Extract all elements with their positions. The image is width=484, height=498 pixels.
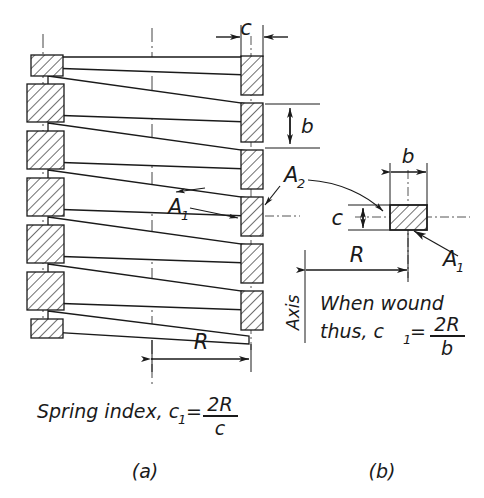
caption-panel-a: (a): [132, 460, 158, 482]
spring-index-figure: c b R A 1: [0, 0, 484, 498]
coil-section-right: [241, 56, 263, 95]
callout-a2-subscript: 2: [297, 176, 305, 191]
dim-label-c-b: c: [331, 206, 343, 230]
note-equals: =: [410, 320, 426, 342]
callout-a1-letter-b: A: [441, 247, 457, 271]
callout-a1-subscript: 1: [181, 208, 189, 223]
coil-section-left: [31, 55, 63, 76]
dim-label-b-a: b: [301, 114, 314, 138]
left-coil-sections: [27, 55, 64, 338]
formula-prefix-a: Spring index, c: [37, 400, 180, 422]
coil-section-left: [27, 272, 64, 310]
formula-numerator-a: 2R: [207, 393, 232, 415]
figure-canvas: c b R A 1: [0, 0, 484, 498]
formula-denominator-a: c: [215, 417, 226, 439]
note-denominator: b: [441, 337, 453, 359]
coil-section-left: [27, 178, 64, 216]
coil-section-left: [27, 225, 64, 263]
callout-a2-letter: A: [282, 163, 298, 187]
dim-label-c-a: c: [240, 16, 252, 40]
caption-panel-b: (b): [369, 460, 396, 482]
coil-section-left: [27, 131, 64, 169]
wire-cross-section-b: [390, 205, 427, 230]
note-line-2-prefix: thus, c: [320, 320, 385, 342]
coil-section-right: [241, 150, 263, 189]
coil-section-left: [27, 84, 64, 122]
dim-label-R-b: R: [350, 243, 365, 267]
coil-bands: [48, 57, 249, 344]
callout-a1-letter: A: [166, 195, 182, 219]
coil-section-left: [31, 319, 63, 338]
axis-label-b: Axis: [283, 295, 303, 331]
callout-a1-subscript-b: 1: [456, 260, 464, 275]
coil-section-right: [241, 291, 263, 330]
dim-label-R-a: R: [194, 330, 209, 354]
dim-label-b-b: b: [402, 144, 415, 168]
note-numerator: 2R: [434, 313, 459, 335]
coil-section-right: [241, 103, 263, 142]
coil-section-right: [241, 197, 263, 236]
note-line-1: When wound: [320, 292, 445, 314]
coil-section-right: [241, 244, 263, 283]
formula-equals-a: =: [186, 400, 202, 422]
